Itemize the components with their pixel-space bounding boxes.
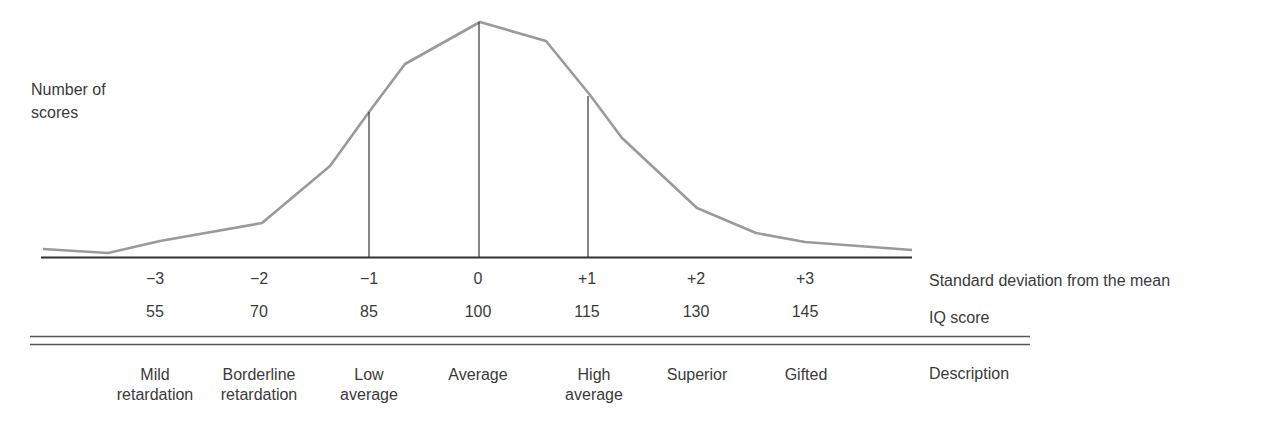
- iq-70: 70: [219, 303, 299, 321]
- bell-curve-plot: [0, 0, 1271, 426]
- iq-130: 130: [656, 303, 736, 321]
- desc-line1: Superior: [642, 365, 752, 385]
- desc-line1: Average: [423, 365, 533, 385]
- desc-line1: High: [539, 365, 649, 385]
- iq-85: 85: [329, 303, 409, 321]
- sd-tick-plus1: +1: [547, 270, 627, 288]
- sd-row-label: Standard deviation from the mean: [929, 272, 1170, 290]
- iq-100: 100: [438, 303, 518, 321]
- y-axis-label-line2: scores: [31, 101, 151, 124]
- distribution-curve: [43, 22, 912, 253]
- iq-row-label: IQ score: [929, 309, 989, 327]
- y-axis-label-line1: Number of: [31, 78, 151, 101]
- description-row-label: Description: [929, 365, 1009, 383]
- desc-line1: Low: [314, 365, 424, 385]
- desc-average: Average: [423, 365, 533, 385]
- desc-line1: Mild: [100, 365, 210, 385]
- iq-115: 115: [547, 303, 627, 321]
- sd-tick-plus3: +3: [765, 270, 845, 288]
- desc-borderline-retardation: Borderlineretardation: [204, 365, 314, 405]
- sd-tick-0: 0: [438, 270, 518, 288]
- desc-gifted: Gifted: [751, 365, 861, 385]
- sd-tick-minus3: −3: [115, 270, 195, 288]
- iq-55: 55: [115, 303, 195, 321]
- desc-low-average: Lowaverage: [314, 365, 424, 405]
- desc-line2: retardation: [204, 385, 314, 405]
- desc-line2: average: [539, 385, 649, 405]
- y-axis-label: Number of scores: [31, 78, 151, 124]
- desc-line2: retardation: [100, 385, 210, 405]
- desc-line1: Gifted: [751, 365, 861, 385]
- desc-mild-retardation: Mildretardation: [100, 365, 210, 405]
- sd-tick-minus1: −1: [329, 270, 409, 288]
- sd-tick-plus2: +2: [656, 270, 736, 288]
- iq-145: 145: [765, 303, 845, 321]
- desc-line2: average: [314, 385, 424, 405]
- desc-high-average: Highaverage: [539, 365, 649, 405]
- desc-line1: Borderline: [204, 365, 314, 385]
- sd-tick-minus2: −2: [219, 270, 299, 288]
- desc-superior: Superior: [642, 365, 752, 385]
